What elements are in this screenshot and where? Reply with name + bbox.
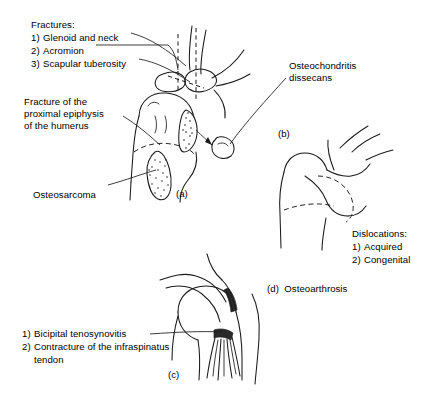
panel-id-a: (a) bbox=[176, 188, 188, 199]
list-text: Congenital bbox=[364, 254, 410, 265]
panel-a-drawing bbox=[130, 26, 250, 202]
panel-c-drawing bbox=[160, 254, 259, 384]
list-number: 3) bbox=[31, 58, 43, 70]
list-text: Glenoid and neck bbox=[43, 32, 118, 43]
label-dislocations-heading: Dislocations: bbox=[352, 228, 407, 240]
list-text: Scapular tuberosity bbox=[43, 58, 126, 69]
label-dislocation-item-1: 1)Acquired bbox=[352, 241, 402, 253]
list-number: 1) bbox=[22, 328, 34, 340]
list-number: 1) bbox=[352, 241, 364, 253]
label-dislocation-item-2: 2)Congenital bbox=[352, 254, 410, 266]
list-text: Bicipital tenosynovitis bbox=[34, 328, 126, 339]
label-fracture-item-1: 1)Glenoid and neck bbox=[31, 32, 118, 44]
label-fracture-item-3: 3)Scapular tuberosity bbox=[31, 58, 126, 70]
anatomical-figure-plate: Fractures: 1)Glenoid and neck 2)Acromion… bbox=[0, 0, 441, 394]
list-text: Contracture of the infraspinatus bbox=[34, 341, 169, 352]
list-number: 2) bbox=[31, 45, 43, 57]
label-fracture-proximal-epiphysis: Fracture of the proximal epiphysis of th… bbox=[24, 96, 104, 133]
list-text: Acquired bbox=[364, 241, 402, 252]
panel-id-b: (b) bbox=[278, 128, 290, 139]
label-tendon-item-3: tendon bbox=[34, 354, 64, 366]
panel-id-c: (c) bbox=[168, 369, 179, 380]
label-fractures-heading: Fractures: bbox=[31, 19, 75, 31]
list-number: 2) bbox=[22, 341, 34, 353]
label-osteoarthrosis: (d) Osteoarthrosis bbox=[267, 283, 347, 295]
label-tendon-item-2: 2)Contracture of the infraspinatus bbox=[22, 341, 169, 353]
list-number: 1) bbox=[31, 32, 43, 44]
arrowhead-loose-body bbox=[205, 137, 212, 145]
list-number: 2) bbox=[352, 254, 364, 266]
label-osteosarcoma: Osteosarcoma bbox=[33, 189, 96, 201]
label-fracture-item-2: 2)Acromion bbox=[31, 45, 84, 57]
label-tendon-item-1: 1)Bicipital tenosynovitis bbox=[22, 328, 126, 340]
label-osteochondritis-dissecans: Osteochondritis dissecans bbox=[289, 60, 356, 84]
leader-lines bbox=[96, 33, 286, 334]
list-text: Acromion bbox=[43, 45, 84, 56]
